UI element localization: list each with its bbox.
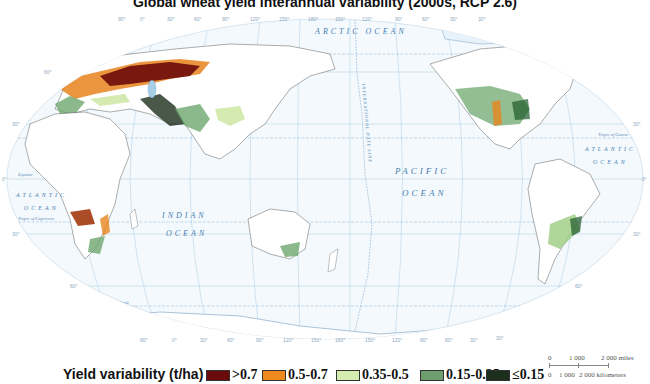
label-tropic-capricorn: Tropic of Capricorn <box>18 216 55 221</box>
svg-text:60°: 60° <box>227 337 235 343</box>
svg-text:0°: 0° <box>2 176 7 182</box>
svg-text:120°: 120° <box>250 16 260 22</box>
svg-text:60°: 60° <box>445 337 453 343</box>
world-map: ARCTIC OCEAN PACIFIC OCEAN ATLANTIC OCEA… <box>0 14 650 344</box>
svg-text:150°: 150° <box>311 337 321 343</box>
svg-text:30°: 30° <box>470 337 478 343</box>
svg-text:120°: 120° <box>392 337 402 343</box>
legend-swatch <box>336 370 360 381</box>
legend-item-very-high: >0.7 <box>206 368 257 382</box>
legend-swatch <box>420 370 444 381</box>
legend-swatch <box>262 370 286 381</box>
legend-item-high: 0.5-0.7 <box>262 368 328 382</box>
caspian-sea <box>148 80 156 98</box>
svg-text:30°: 30° <box>478 16 486 22</box>
legend-item-very-low: ≤0.15 <box>486 368 544 382</box>
svg-text:30°: 30° <box>450 16 458 22</box>
svg-text:0°: 0° <box>140 16 145 22</box>
svg-text:90°: 90° <box>140 337 148 343</box>
legend-item-medium: 0.35-0.5 <box>336 368 409 382</box>
svg-text:90°: 90° <box>395 16 403 22</box>
legend-swatch <box>486 370 510 381</box>
svg-text:90°: 90° <box>420 337 428 343</box>
ocean-label-atlantic-east-1: ATLANTIC <box>584 146 636 152</box>
svg-text:30°: 30° <box>167 16 175 22</box>
ocean-label-atlantic-east-2: OCEAN <box>593 159 628 165</box>
label-antarctic-circle: Antarctic Circle <box>99 300 129 305</box>
ocean-label-arctic: ARCTIC OCEAN <box>314 27 407 36</box>
ocean-label-atlantic-west-2: OCEAN <box>24 205 59 211</box>
svg-text:0°: 0° <box>172 337 177 343</box>
svg-text:60°: 60° <box>422 16 430 22</box>
label-tropic-cancer: Tropic of Cancer <box>598 132 629 137</box>
svg-text:30°: 30° <box>200 337 208 343</box>
scale-bar-line <box>549 365 609 366</box>
svg-text:180°: 180° <box>335 337 345 343</box>
legend-swatch <box>206 370 230 381</box>
svg-text:150°: 150° <box>335 16 345 22</box>
svg-text:0°: 0° <box>642 176 647 182</box>
svg-text:120°: 120° <box>283 337 293 343</box>
svg-text:180°: 180° <box>308 16 318 22</box>
svg-text:30°: 30° <box>12 231 20 237</box>
ocean-label-atlantic-west-1: ATLANTIC <box>15 192 67 198</box>
label-arctic-circle: Arctic Circle <box>94 48 118 53</box>
svg-text:30°: 30° <box>633 231 641 237</box>
svg-text:90°: 90° <box>222 16 230 22</box>
svg-text:30°: 30° <box>496 335 504 341</box>
svg-text:60°: 60° <box>70 283 78 289</box>
svg-text:30°: 30° <box>12 121 20 127</box>
svg-text:30°: 30° <box>633 121 641 127</box>
scale-bar: 0 1 000 2 000 miles 0 1 000 2 000 kilome… <box>545 352 650 384</box>
ocean-label-indian-2: OCEAN <box>166 229 207 238</box>
svg-text:60°: 60° <box>575 283 583 289</box>
ocean-label-indian-1: INDIAN <box>161 211 207 220</box>
svg-text:90°: 90° <box>256 337 264 343</box>
svg-text:150°: 150° <box>279 16 289 22</box>
label-equator: Equator <box>17 172 33 177</box>
svg-text:150°: 150° <box>365 337 375 343</box>
ocean-label-pacific-2: OCEAN <box>402 188 447 198</box>
legend-title: Yield variability (t/ha) <box>63 366 203 382</box>
svg-text:120°: 120° <box>362 16 372 22</box>
svg-text:60°: 60° <box>44 69 52 75</box>
svg-text:60°: 60° <box>194 16 202 22</box>
ocean-label-pacific-1: PACIFIC <box>394 166 449 176</box>
map-title: Global wheat yield interannual variabili… <box>0 0 650 10</box>
svg-text:90°: 90° <box>118 16 126 22</box>
